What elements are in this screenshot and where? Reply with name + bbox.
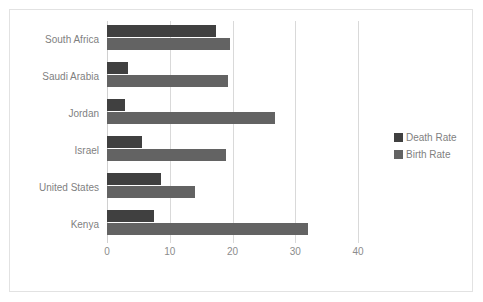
plot-area [107,21,358,243]
x-tick-label: 40 [352,246,363,257]
category-label-united-states: United States [39,169,99,206]
x-tick-label: 20 [227,246,238,257]
bar-death-rate-south-africa[interactable] [107,25,216,37]
bar-group [107,132,358,169]
chart-legend: Death RateBirth Rate [394,130,457,164]
bar-death-rate-israel[interactable] [107,136,142,148]
legend-swatch-icon [394,133,403,142]
bar-death-rate-jordan[interactable] [107,99,125,111]
bar-death-rate-united-states[interactable] [107,173,161,185]
legend-item-birth-rate[interactable]: Birth Rate [394,147,457,162]
legend-item-death-rate[interactable]: Death Rate [394,130,457,145]
bar-group [107,95,358,132]
bar-birth-rate-saudi-arabia[interactable] [107,75,228,87]
x-tick-label: 0 [104,246,110,257]
bar-birth-rate-israel[interactable] [107,149,226,161]
legend-label: Birth Rate [406,149,450,160]
bar-birth-rate-jordan[interactable] [107,112,275,124]
bar-death-rate-kenya[interactable] [107,210,154,222]
x-tick-label: 10 [164,246,175,257]
bar-group [107,58,358,95]
x-axis-tick-labels: 010203040 [107,246,358,262]
category-label-kenya: Kenya [71,206,99,243]
legend-label: Death Rate [406,132,457,143]
category-label-jordan: Jordan [68,95,99,132]
category-label-israel: Israel [75,132,99,169]
y-axis-category-labels: South AfricaSaudi ArabiaJordanIsraelUnit… [10,21,105,243]
x-tick-label: 30 [290,246,301,257]
bar-group [107,169,358,206]
legend-swatch-icon [394,150,403,159]
bar-death-rate-saudi-arabia[interactable] [107,62,128,74]
bar-group [107,206,358,243]
category-label-saudi-arabia: Saudi Arabia [42,58,99,95]
bar-birth-rate-united-states[interactable] [107,186,195,198]
bar-birth-rate-south-africa[interactable] [107,38,230,50]
chart-frame: South AfricaSaudi ArabiaJordanIsraelUnit… [9,9,473,292]
bar-birth-rate-kenya[interactable] [107,223,308,235]
category-label-south-africa: South Africa [45,21,99,58]
gridline-40 [358,21,359,243]
bar-rows [107,21,358,243]
bar-group [107,21,358,58]
